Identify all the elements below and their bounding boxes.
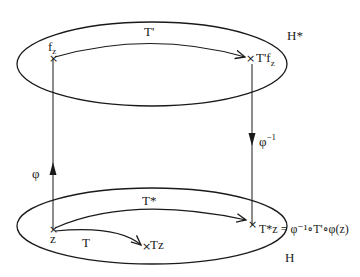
point-fz-label: fz xyxy=(48,39,56,56)
point-tprime-fz-label: T'fz xyxy=(256,50,275,68)
t-star-arrow xyxy=(55,209,246,228)
t-label: T xyxy=(82,235,90,250)
point-tstar-z-label: T*z = φ⁻¹∘T'∘φ(z) xyxy=(259,222,349,236)
phi-arrowhead-icon xyxy=(50,162,57,175)
t-prime-arrow xyxy=(55,44,245,58)
t-arrow xyxy=(55,230,141,245)
point-tstar-z-marker: × xyxy=(248,218,257,231)
phi-label: φ xyxy=(32,166,40,181)
point-tz-label: Tz xyxy=(150,237,164,252)
t-star-label: T* xyxy=(142,193,156,208)
space-h-star-label: H* xyxy=(287,28,303,43)
point-z-label: z xyxy=(50,231,56,246)
phi-inverse-label: φ−1 xyxy=(259,132,276,149)
space-h-label: H xyxy=(285,250,294,265)
commutative-diagram: H* H φ φ−1 T' × fz × T'fz T* T × z × Tz … xyxy=(0,0,360,277)
phi-inverse-arrowhead-icon xyxy=(249,133,256,146)
t-prime-label: T' xyxy=(144,24,154,39)
point-tprime-fz-marker: × xyxy=(246,52,255,65)
